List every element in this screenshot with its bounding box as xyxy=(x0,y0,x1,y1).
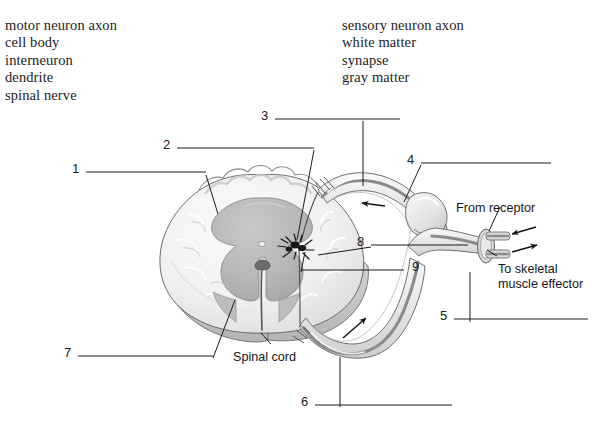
blank-number-9: 9 xyxy=(412,259,419,274)
blank-number-6: 6 xyxy=(301,394,308,409)
blank-number-2: 2 xyxy=(163,137,170,152)
blank-number-3: 3 xyxy=(261,108,268,123)
blank-number-4: 4 xyxy=(407,152,414,167)
answer-rules xyxy=(0,0,605,427)
figure-canvas: motor neuron axon cell body interneuron … xyxy=(0,0,605,427)
blank-number-8: 8 xyxy=(357,234,364,249)
blank-number-5: 5 xyxy=(440,308,447,323)
blank-number-7: 7 xyxy=(64,345,71,360)
blank-number-1: 1 xyxy=(72,161,79,176)
